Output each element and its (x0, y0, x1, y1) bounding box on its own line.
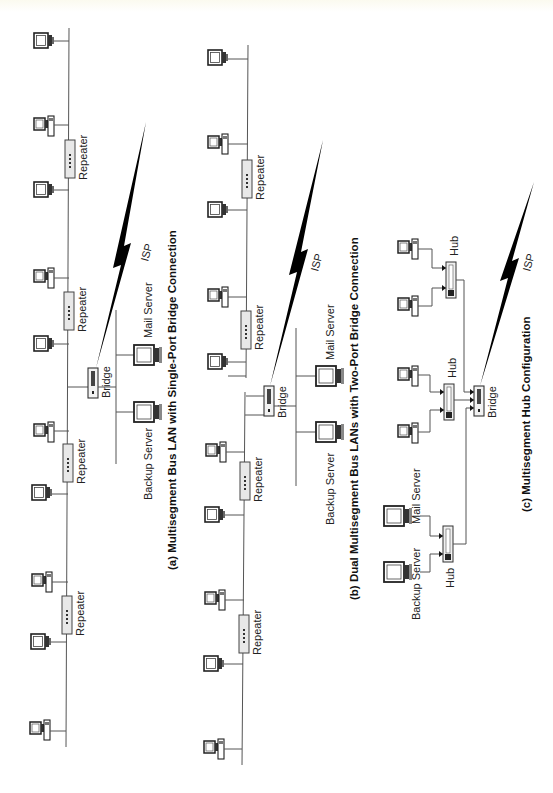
workstation-icon (398, 239, 418, 259)
workstation-icon (206, 442, 245, 462)
mail-server-icon (316, 366, 344, 386)
isp-label: ISP (308, 252, 324, 272)
workstation-icon (32, 572, 68, 592)
bridge-icon (264, 386, 274, 416)
workstation-icon (31, 634, 67, 649)
repeater-icon (62, 596, 72, 634)
repeater-icon (241, 311, 251, 349)
hub-icon (444, 384, 454, 420)
repeater-label: Repeater (253, 304, 265, 350)
caption-b: (b) Dual Multisegment Bus LANs with Two-… (348, 237, 360, 600)
workstation-icon (208, 354, 246, 369)
mail-server-label: Mail Server (142, 282, 154, 338)
workstation-icon (398, 366, 418, 386)
workstation-icon (208, 287, 247, 307)
bridge-icon (88, 368, 98, 398)
repeater-icon (65, 140, 75, 178)
repeater-label: Repeater (76, 286, 88, 332)
hub-label: Hub (446, 358, 458, 378)
workstation-icon (34, 422, 69, 442)
repeater-label: Repeater (75, 438, 87, 484)
workstation-icon (30, 720, 66, 740)
bus-line-lower (242, 392, 245, 765)
backup-server-icon (134, 402, 162, 422)
workstation-icon (204, 656, 243, 671)
workstation-icon (204, 739, 242, 759)
hub-icon (443, 526, 453, 562)
repeater-label: Repeater (254, 154, 266, 200)
workstation-icon (34, 116, 69, 136)
backup-server-icon (316, 422, 344, 442)
workstation-icon (34, 33, 69, 48)
workstation-icon (34, 268, 69, 288)
isp-label: ISP (520, 252, 536, 272)
diagram-a: Repeater Repeater Repeater Repeater Brid… (30, 28, 178, 747)
repeater-label: Repeater (77, 134, 89, 180)
mail-server-label: Mail Server (324, 304, 336, 360)
workstation-icon (208, 50, 248, 65)
hub-icon (446, 262, 456, 298)
workstation-icon (205, 507, 244, 522)
diagram-b: Repeater Repeater Repeater Repeater Brid… (204, 45, 360, 765)
workstation-icon (32, 485, 68, 500)
network-diagrams: Repeater Repeater Repeater Repeater Brid… (0, 0, 553, 793)
bridge-label: Bridge (276, 386, 288, 418)
repeater-icon (242, 160, 252, 198)
diagram-c: Hub Hub Hub Mail Server Backup Server Br… (384, 182, 537, 620)
workstation-icon (34, 182, 69, 197)
repeater-icon (64, 292, 74, 330)
repeater-icon (63, 444, 73, 482)
backup-server-label: Backup Server (142, 428, 154, 500)
workstation-icon (398, 296, 418, 316)
workstation-icon (34, 336, 69, 351)
workstation-icon (205, 590, 244, 610)
repeater-icon (239, 615, 249, 653)
bridge-icon (474, 386, 484, 416)
caption-a: (a) Multisegment Bus LAN with Single-Por… (166, 230, 178, 570)
workstation-icon (208, 134, 248, 154)
repeater-label: Repeater (252, 456, 264, 502)
mail-server-icon (384, 506, 412, 526)
backup-server-icon (384, 562, 412, 582)
repeater-label: Repeater (251, 609, 263, 655)
isp-label: ISP (138, 242, 154, 262)
isp-link-icon (96, 122, 146, 368)
bridge-label: Bridge (100, 366, 112, 398)
repeater-icon (240, 462, 250, 500)
workstation-icon (398, 423, 418, 443)
caption-c: (c) Multisegment Hub Configuration (520, 317, 532, 512)
mail-server-icon (134, 345, 162, 365)
hub-label: Hub (444, 568, 456, 588)
bridge-label: Bridge (486, 386, 498, 418)
backup-server-label: Backup Server (410, 548, 422, 620)
backup-server-label: Backup Server (324, 453, 336, 525)
repeater-label: Repeater (74, 590, 86, 636)
hub-label: Hub (448, 236, 460, 256)
workstation-icon (208, 202, 247, 217)
